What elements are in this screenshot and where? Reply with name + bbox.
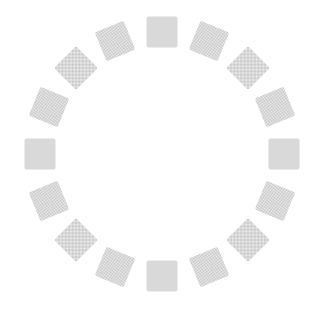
- spinner-segment: [226, 218, 270, 262]
- spinner-segment: [269, 139, 300, 170]
- spinner-segment: [54, 218, 98, 262]
- spinner-segment: [188, 21, 229, 62]
- spinner-segment: [254, 87, 295, 128]
- spinner-segment: [254, 180, 295, 221]
- spinner-segment: [54, 46, 98, 90]
- spinner-segment: [29, 87, 70, 128]
- spinner-segment: [95, 246, 136, 287]
- spinner-segment: [95, 21, 136, 62]
- spinner-segment: [29, 180, 70, 221]
- loading-screen: [0, 0, 322, 316]
- spinner-segment: [25, 139, 56, 170]
- spinner-segment: [147, 261, 178, 292]
- spinner-segment: [188, 246, 229, 287]
- spinner-segment: [226, 46, 270, 90]
- spinner-segment: [147, 17, 178, 48]
- loading-spinner: [0, 0, 322, 316]
